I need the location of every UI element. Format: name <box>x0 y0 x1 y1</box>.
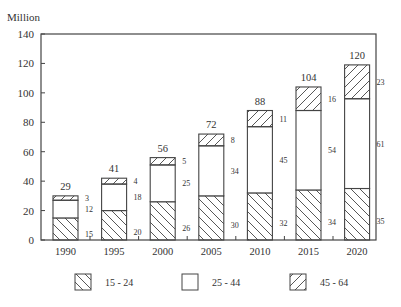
legend-label: 45 - 64 <box>320 277 348 288</box>
segment-value-label: 20 <box>134 228 142 237</box>
segment-value-label: 32 <box>279 219 287 228</box>
legend-label: 25 - 44 <box>212 277 240 288</box>
legend-swatch <box>75 274 91 290</box>
segment-value-label: 11 <box>279 115 287 124</box>
total-value-label: 56 <box>157 143 168 154</box>
legend-swatch <box>182 274 198 290</box>
bar-segment <box>296 87 321 111</box>
x-tick-label: 2020 <box>347 246 368 257</box>
bar-segment <box>199 196 224 240</box>
bar-segment <box>102 211 127 240</box>
segment-value-label: 61 <box>377 140 385 149</box>
x-tick-label: 2000 <box>152 246 173 257</box>
total-value-label: 29 <box>60 181 71 192</box>
x-tick-label: 1990 <box>55 246 76 257</box>
total-value-label: 120 <box>349 50 365 61</box>
segment-value-label: 18 <box>134 193 142 202</box>
segment-value-label: 3 <box>85 194 89 203</box>
segment-value-label: 26 <box>182 224 190 233</box>
total-value-label: 88 <box>255 96 266 107</box>
bar-segment <box>150 165 175 202</box>
bar-segment <box>150 158 175 165</box>
legend-item: 45 - 64 <box>290 274 348 290</box>
bar-segment <box>102 184 127 210</box>
total-value-label: 72 <box>206 119 217 130</box>
bar-segment <box>296 190 321 240</box>
legend-item: 25 - 44 <box>182 274 240 290</box>
bars <box>53 65 370 240</box>
bar-segment <box>247 193 272 240</box>
bar-segment <box>150 202 175 240</box>
total-value-label: 41 <box>109 163 120 174</box>
segment-value-label: 45 <box>279 156 287 165</box>
bar-segment <box>345 189 370 241</box>
segment-value-label: 34 <box>231 167 239 176</box>
y-tick-label: 0 <box>29 234 35 246</box>
bar-segment <box>345 99 370 189</box>
bar-segment <box>199 146 224 196</box>
bar-segment <box>345 65 370 99</box>
y-tick-label: 40 <box>23 175 35 187</box>
y-tick-label: 60 <box>23 146 35 158</box>
y-tick-label: 100 <box>18 87 35 99</box>
segment-value-label: 54 <box>328 146 336 155</box>
legend: 15 - 2425 - 4445 - 64 <box>75 274 348 290</box>
y-tick-label: 120 <box>18 57 35 69</box>
segment-value-label: 34 <box>328 218 336 227</box>
y-axis-title: Million <box>7 11 41 23</box>
segment-value-label: 30 <box>231 221 239 230</box>
bar-segment <box>53 200 78 218</box>
x-tick-label: 2005 <box>201 246 222 257</box>
y-tick-label: 20 <box>23 205 35 217</box>
segment-value-label: 8 <box>231 136 235 145</box>
stacked-bar-chart: Million020406080100120140199019952000200… <box>0 0 401 307</box>
bar-segment <box>53 196 78 200</box>
segment-value-label: 35 <box>377 217 385 226</box>
bar-segment <box>296 111 321 190</box>
x-tick-label: 2010 <box>249 246 270 257</box>
bar-segment <box>53 218 78 240</box>
segment-value-label: 12 <box>85 205 93 214</box>
x-tick-label: 2015 <box>298 246 319 257</box>
segment-value-label: 4 <box>134 177 138 186</box>
segment-value-label: 15 <box>85 230 93 239</box>
total-value-label: 104 <box>301 72 318 83</box>
segment-value-label: 25 <box>182 179 190 188</box>
legend-swatch <box>290 274 306 290</box>
segment-value-label: 23 <box>377 78 385 87</box>
bar-segment <box>247 111 272 127</box>
bar-segment <box>247 127 272 193</box>
bar-segment <box>102 178 127 184</box>
y-tick-label: 140 <box>18 28 35 40</box>
segment-value-label: 16 <box>328 95 336 104</box>
x-tick-label: 1995 <box>104 246 125 257</box>
y-tick-label: 80 <box>23 116 35 128</box>
legend-label: 15 - 24 <box>105 277 133 288</box>
bar-segment <box>199 134 224 146</box>
segment-value-label: 5 <box>182 157 186 166</box>
legend-item: 15 - 24 <box>75 274 133 290</box>
